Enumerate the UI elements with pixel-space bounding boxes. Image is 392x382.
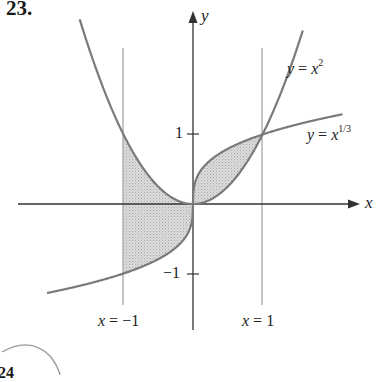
label-eq: = [314,126,331,143]
y-axis-arrow-icon [189,11,198,23]
label-y-equals-x-squared: y = x2 [287,60,323,78]
label-exp: 2 [318,57,323,68]
tick-label-1: 1 [175,124,183,142]
x-axis-arrow-icon [348,200,360,209]
y-axis-label: y [201,6,209,26]
shaded-region-right [193,135,263,205]
label-rest: = 1 [249,312,274,329]
label-eq: = [294,60,311,77]
problem-number: 23. [6,0,32,21]
label-x-equals-1: x = 1 [242,312,274,330]
label-x-equals-neg1: x = −1 [98,312,139,330]
x-axis-label: x [365,193,373,213]
tick-label-neg1: −1 [163,264,180,282]
label-y-equals-cube-root-x: y = x1/3 [307,126,351,144]
curve-y-equals-x-squared [80,19,303,204]
label-rest: = −1 [105,312,139,329]
next-problem-number: 24 [0,364,14,382]
label-exp: 1/3 [338,123,351,134]
